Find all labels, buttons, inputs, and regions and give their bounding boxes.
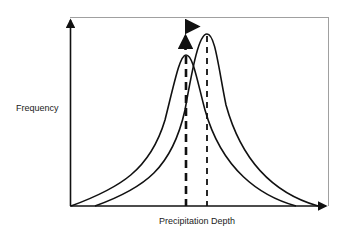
original-distribution-curve	[71, 55, 296, 206]
y-axis-label: Frequency	[16, 103, 59, 113]
x-axis-label: Precipitation Depth	[159, 216, 235, 226]
distribution-shift-diagram: Frequency Precipitation Depth	[0, 0, 343, 238]
plot-area	[0, 0, 343, 238]
